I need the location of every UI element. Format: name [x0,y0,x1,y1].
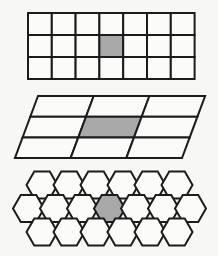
rhombus-tiling [0,88,218,168]
square-tile [52,13,76,35]
rhombus-tile [15,137,78,158]
rhombus-tile [23,117,86,138]
square-tile-highlighted [99,35,123,57]
square-tiling [0,0,218,92]
rhombus-tile-highlighted [78,117,141,138]
square-tile [52,57,76,79]
square-tile [28,57,52,79]
square-tile [28,35,52,57]
hexagon-tiling [0,166,218,256]
square-tile [123,35,147,57]
square-tile [28,13,52,35]
square-tile [76,57,100,79]
tessellation-figure [0,0,218,256]
square-tile [123,57,147,79]
rhombus-tile [126,137,189,158]
square-tile [171,57,195,79]
rhombus-tile [71,137,134,158]
rhombus-tile [142,96,205,117]
square-tile [147,13,171,35]
square-tile [147,35,171,57]
rhombus-tile [30,96,93,117]
square-tile [171,13,195,35]
hexagon-tile [162,219,193,246]
square-tile [171,35,195,57]
square-tile [52,35,76,57]
square-tile [76,13,100,35]
square-tile [99,13,123,35]
square-tile [76,35,100,57]
rhombus-tile [86,96,149,117]
square-tile [99,57,123,79]
square-tile [147,57,171,79]
rhombus-tile [134,117,197,138]
square-tile [123,13,147,35]
